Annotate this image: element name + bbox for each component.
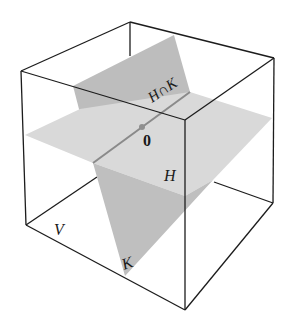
edge-left-vertical [21,71,26,225]
edge-back-bottom-left [26,177,97,225]
origin-point [139,124,145,130]
label-plane-h: H [163,167,177,184]
edge-back-bottom-right [214,182,273,203]
diagram-canvas: H∩K 0 H V K [0,0,291,326]
label-origin: 0 [143,132,151,149]
label-space-v: V [54,221,66,238]
edge-top-back-left [21,22,130,71]
edge-bottom-front-left [26,225,185,310]
edge-right-vertical [273,58,274,203]
edge-bottom-front-right [185,203,273,310]
